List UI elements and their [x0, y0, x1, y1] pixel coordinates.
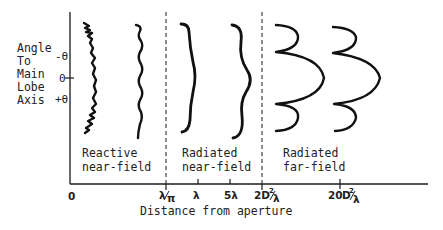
svg-text:Radiated: Radiated — [182, 146, 237, 160]
y-tick-label-plus-theta: +θ — [55, 93, 68, 106]
reactive-pattern-2 — [136, 25, 142, 138]
far-field-pattern-1 — [276, 25, 324, 131]
region-label-reactive-near-field: Reactive near-field — [82, 146, 151, 174]
x-tick-label-lambda: λ — [193, 189, 200, 201]
svg-text:far-field: far-field — [283, 160, 345, 174]
y-tick-label-minus-theta: -θ — [55, 50, 68, 63]
x-tick-label-origin: 0 — [68, 190, 75, 202]
svg-text:Angle: Angle — [17, 41, 52, 55]
y-tick-label-zero: 0 — [59, 72, 66, 85]
svg-text:Radiated: Radiated — [283, 146, 338, 160]
x-tick-label-lambda-over-pi: λ π — [159, 189, 175, 204]
radiated-near-pattern-1 — [181, 24, 195, 132]
y-axis-label: Angle To Main Lobe Axis — [17, 41, 52, 107]
x-tick-label-5lambda: 5λ — [224, 189, 238, 201]
svg-text:To: To — [17, 54, 31, 68]
region-label-radiated-far-field: Radiated far-field — [283, 146, 345, 174]
svg-text:20: 20 — [328, 189, 343, 201]
svg-text:Main: Main — [17, 67, 45, 81]
x-tick-label-20d2-over-lambda: 20 D 2 λ — [328, 187, 360, 205]
reactive-pattern-1 — [84, 23, 96, 133]
x-axis-label: Distance from aperture — [140, 204, 292, 218]
svg-text:Axis: Axis — [17, 93, 45, 107]
svg-text:near-field: near-field — [182, 160, 251, 174]
far-field-pattern-2 — [333, 27, 380, 131]
svg-text:2D: 2D — [254, 189, 270, 201]
radiated-near-pattern-2 — [232, 25, 250, 138]
svg-text:λ: λ — [273, 192, 280, 204]
region-label-radiated-near-field: Radiated near-field — [182, 146, 251, 174]
x-tick-label-2d2-over-lambda: 2D 2 λ — [254, 187, 280, 204]
svg-text:Lobe: Lobe — [17, 80, 45, 94]
svg-text:λ: λ — [353, 193, 360, 205]
svg-text:π: π — [167, 192, 175, 204]
svg-text:Reactive: Reactive — [82, 146, 137, 160]
svg-text:near-field: near-field — [82, 160, 151, 174]
antenna-field-regions-diagram: Angle To Main Lobe Axis -θ 0 +θ Reactive… — [0, 0, 443, 230]
